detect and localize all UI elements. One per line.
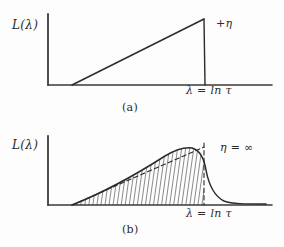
- panel-a-ramp: [72, 19, 204, 85]
- figure-container: L(λ) +η λ = ln τ (a) L(λ) η = ∞ λ = ln τ…: [0, 0, 284, 247]
- panel-b-hatched-area: [48, 135, 218, 207]
- panel-b-caption: (b): [122, 223, 139, 236]
- panel-a-cutoff: [204, 19, 205, 85]
- panel-a-eta-annotation: +η: [216, 17, 232, 30]
- panel-a-caption: (a): [122, 101, 138, 114]
- panel-b-eta-annotation: η = ∞: [220, 141, 253, 154]
- panel-a-x-axis-label: λ = ln τ: [186, 84, 232, 97]
- panel-b-y-axis-label: L(λ): [12, 138, 38, 152]
- figure-canvas: [0, 0, 284, 247]
- panel-a: [48, 14, 272, 85]
- panel-b-x-axis-label: λ = ln τ: [186, 207, 232, 220]
- panel-a-y-axis-label: L(λ): [12, 18, 38, 32]
